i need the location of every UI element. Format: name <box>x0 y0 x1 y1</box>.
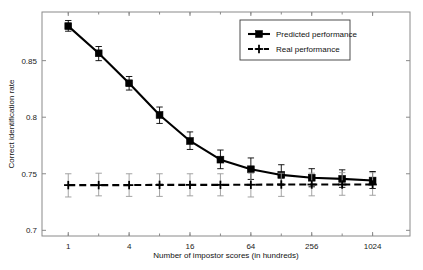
y-tick-label: 0.7 <box>26 226 38 235</box>
data-point-marker <box>247 166 254 173</box>
x-tick-label: 64 <box>246 242 255 251</box>
data-point-marker <box>65 23 72 30</box>
x-tick-label: 4 <box>127 242 132 251</box>
legend-label-1: Real performance <box>276 45 340 54</box>
data-point-marker <box>187 138 194 145</box>
x-tick-label: 16 <box>186 242 195 251</box>
x-tick-label: 256 <box>305 242 319 251</box>
legend-label-0: Predicted performance <box>276 30 357 39</box>
x-axis-title: Number of impostor scores (in hundreds) <box>153 251 299 260</box>
x-tick-label: 1024 <box>364 242 382 251</box>
legend-marker-square <box>256 31 263 38</box>
legend-box <box>240 20 350 60</box>
chart-canvas: 14166425610240.70.750.80.85Number of imp… <box>0 0 423 270</box>
data-point-marker <box>156 112 163 119</box>
data-point-marker <box>95 50 102 57</box>
y-tick-label: 0.75 <box>21 170 37 179</box>
y-axis-title: Correct identification rate <box>7 79 16 168</box>
plot-frame <box>42 12 410 236</box>
y-tick-label: 0.85 <box>21 57 37 66</box>
data-point-marker <box>126 80 133 87</box>
chart-figure: 14166425610240.70.750.80.85Number of imp… <box>0 0 423 270</box>
data-point-marker <box>217 156 224 163</box>
y-tick-label: 0.8 <box>26 113 38 122</box>
x-tick-label: 1 <box>66 242 71 251</box>
